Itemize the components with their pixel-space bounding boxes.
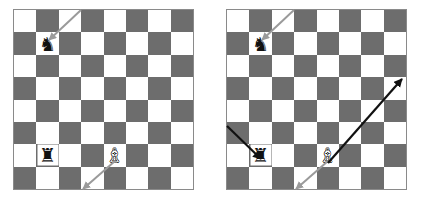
black-knight[interactable]: ♞	[251, 34, 271, 54]
square-r1-c6[interactable]	[126, 10, 148, 32]
square-r3-c1[interactable]	[227, 55, 249, 77]
square-r5-c2[interactable]	[249, 100, 271, 122]
square-r7-c1[interactable]	[14, 144, 36, 166]
square-r6-c5[interactable]	[317, 122, 339, 144]
square-r3-c3[interactable]	[59, 55, 81, 77]
square-r6-c3[interactable]	[272, 122, 294, 144]
square-r3-c7[interactable]	[361, 55, 383, 77]
square-r3-c2[interactable]	[249, 55, 271, 77]
square-r4-c8[interactable]	[384, 77, 406, 99]
square-r2-c5[interactable]	[317, 32, 339, 54]
square-r4-c5[interactable]	[104, 77, 126, 99]
square-r4-c6[interactable]	[339, 77, 361, 99]
square-r6-c5[interactable]	[104, 122, 126, 144]
square-r7-c6[interactable]	[339, 144, 361, 166]
square-r3-c1[interactable]	[14, 55, 36, 77]
square-r2-c6[interactable]	[339, 32, 361, 54]
square-r8-c4[interactable]	[81, 167, 103, 189]
square-r6-c4[interactable]	[294, 122, 316, 144]
black-knight[interactable]: ♞	[38, 34, 58, 54]
square-r3-c6[interactable]	[339, 55, 361, 77]
square-r1-c8[interactable]	[384, 10, 406, 32]
square-r8-c1[interactable]	[227, 167, 249, 189]
square-r6-c2[interactable]	[249, 122, 271, 144]
square-r4-c3[interactable]	[59, 77, 81, 99]
black-rook[interactable]: ♜	[38, 145, 58, 165]
square-r2-c7[interactable]	[148, 32, 170, 54]
square-r1-c5[interactable]	[317, 10, 339, 32]
square-r7-c4[interactable]	[81, 144, 103, 166]
square-r2-c3[interactable]	[59, 32, 81, 54]
square-r4-c7[interactable]	[148, 77, 170, 99]
square-r4-c4[interactable]	[81, 77, 103, 99]
square-r2-c4[interactable]	[294, 32, 316, 54]
square-r3-c4[interactable]	[81, 55, 103, 77]
square-r7-c3[interactable]	[59, 144, 81, 166]
square-r5-c2[interactable]	[36, 100, 58, 122]
square-r5-c4[interactable]	[294, 100, 316, 122]
square-r2-c1[interactable]	[14, 32, 36, 54]
square-r1-c3[interactable]	[59, 10, 81, 32]
white-bishop[interactable]: ♗	[105, 145, 125, 165]
square-r8-c3[interactable]	[272, 167, 294, 189]
square-r4-c7[interactable]	[361, 77, 383, 99]
square-r8-c7[interactable]	[148, 167, 170, 189]
square-r6-c7[interactable]	[148, 122, 170, 144]
square-r8-c6[interactable]	[339, 167, 361, 189]
square-r2-c3[interactable]	[272, 32, 294, 54]
square-r8-c4[interactable]	[294, 167, 316, 189]
square-r7-c1[interactable]	[227, 144, 249, 166]
square-r6-c7[interactable]	[361, 122, 383, 144]
square-r5-c6[interactable]	[339, 100, 361, 122]
square-r4-c2[interactable]	[249, 77, 271, 99]
square-r1-c5[interactable]	[104, 10, 126, 32]
square-r5-c5[interactable]	[317, 100, 339, 122]
square-r3-c7[interactable]	[148, 55, 170, 77]
square-r5-c1[interactable]	[14, 100, 36, 122]
square-r4-c1[interactable]	[14, 77, 36, 99]
square-r3-c6[interactable]	[126, 55, 148, 77]
square-r1-c4[interactable]	[81, 10, 103, 32]
square-r1-c2[interactable]	[36, 10, 58, 32]
square-r5-c8[interactable]	[171, 100, 193, 122]
square-r2-c2[interactable]: ♞	[36, 32, 58, 54]
square-r4-c4[interactable]	[294, 77, 316, 99]
square-r8-c1[interactable]	[14, 167, 36, 189]
square-r7-c4[interactable]	[294, 144, 316, 166]
square-r4-c3[interactable]	[272, 77, 294, 99]
square-r2-c8[interactable]	[384, 32, 406, 54]
square-r4-c5[interactable]	[317, 77, 339, 99]
square-r3-c2[interactable]	[36, 55, 58, 77]
square-r5-c6[interactable]	[126, 100, 148, 122]
square-r5-c7[interactable]	[361, 100, 383, 122]
square-r7-c6[interactable]	[126, 144, 148, 166]
square-r1-c7[interactable]	[361, 10, 383, 32]
square-r2-c2[interactable]: ♞	[249, 32, 271, 54]
square-r6-c8[interactable]	[384, 122, 406, 144]
square-r3-c4[interactable]	[294, 55, 316, 77]
square-r4-c1[interactable]	[227, 77, 249, 99]
square-r7-c2[interactable]: ♜	[249, 144, 271, 166]
square-r7-c5[interactable]: ♗	[317, 144, 339, 166]
square-r8-c6[interactable]	[126, 167, 148, 189]
square-r2-c1[interactable]	[227, 32, 249, 54]
square-r7-c2[interactable]: ♜	[36, 144, 58, 166]
square-r5-c8[interactable]	[384, 100, 406, 122]
square-r7-c8[interactable]	[171, 144, 193, 166]
square-r1-c7[interactable]	[148, 10, 170, 32]
square-r3-c3[interactable]	[272, 55, 294, 77]
square-r8-c2[interactable]	[249, 167, 271, 189]
square-r1-c8[interactable]	[171, 10, 193, 32]
square-r3-c8[interactable]	[384, 55, 406, 77]
square-r6-c6[interactable]	[339, 122, 361, 144]
square-r8-c8[interactable]	[171, 167, 193, 189]
square-r4-c6[interactable]	[126, 77, 148, 99]
square-r5-c7[interactable]	[148, 100, 170, 122]
square-r2-c8[interactable]	[171, 32, 193, 54]
square-r5-c5[interactable]	[104, 100, 126, 122]
white-bishop[interactable]: ♗	[318, 145, 338, 165]
square-r7-c7[interactable]	[361, 144, 383, 166]
square-r1-c4[interactable]	[294, 10, 316, 32]
square-r1-c1[interactable]	[227, 10, 249, 32]
square-r1-c2[interactable]	[249, 10, 271, 32]
